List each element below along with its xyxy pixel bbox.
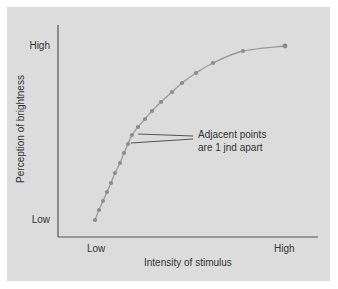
data-point [118, 161, 122, 165]
annotation-line-1: Adjacent points [198, 129, 266, 140]
data-point [101, 199, 105, 203]
data-point [122, 151, 126, 155]
y-tick-low: Low [32, 214, 51, 225]
y-axis-label: Perception of brightness [15, 75, 26, 183]
x-tick-high: High [274, 243, 295, 254]
annotation-leader-lower [131, 139, 193, 143]
data-point [194, 71, 198, 75]
data-point [113, 171, 117, 175]
x-axis-label: Intensity of stimulus [144, 257, 232, 268]
data-point [93, 218, 97, 222]
data-point [109, 181, 113, 185]
data-point [97, 208, 101, 212]
x-tick-low: Low [87, 243, 106, 254]
data-point [159, 100, 163, 104]
y-tick-high: High [29, 40, 50, 51]
data-point [136, 125, 140, 129]
data-point [180, 81, 184, 85]
data-point [211, 61, 215, 65]
data-point [143, 117, 147, 121]
data-point [241, 49, 245, 53]
data-point [105, 190, 109, 194]
data-point [170, 90, 174, 94]
data-point [283, 44, 288, 49]
annotation-leader-upper [138, 134, 193, 136]
brightness-chart: Adjacent points are 1 jnd apart High Low… [0, 0, 338, 289]
data-point [130, 133, 134, 137]
data-point [150, 109, 154, 113]
data-point [126, 142, 130, 146]
annotation-line-2: are 1 jnd apart [198, 142, 263, 153]
